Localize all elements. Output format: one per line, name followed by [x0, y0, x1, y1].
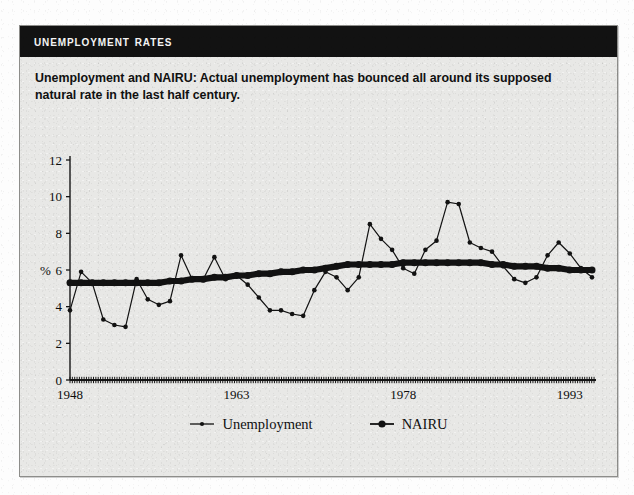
series-nairu — [67, 259, 596, 286]
svg-text:12: 12 — [49, 153, 62, 168]
unemployment-nairu-line-chart: 024681012 1948196319781993 % — [20, 118, 617, 418]
svg-text:1963: 1963 — [224, 387, 250, 402]
chart-legend: Unemployment NAIRU — [20, 410, 617, 438]
legend-label-nairu: NAIRU — [402, 416, 448, 433]
x-axis: 1948196319781993 — [57, 377, 596, 402]
svg-text:10: 10 — [49, 189, 62, 204]
svg-text:1948: 1948 — [57, 387, 83, 402]
svg-text:1993: 1993 — [557, 387, 583, 402]
legend-marker-nairu-icon — [369, 418, 395, 430]
svg-text:6: 6 — [56, 263, 63, 278]
chart-plot-area: 024681012 1948196319781993 % — [20, 118, 617, 418]
y-axis-label: % — [40, 263, 51, 278]
svg-text:0: 0 — [56, 373, 63, 388]
legend-item-unemployment: Unemployment — [189, 416, 312, 433]
figure-page: Unemployment Rates Unemployment and NAIR… — [0, 0, 634, 495]
legend-marker-unemployment-icon — [189, 418, 215, 430]
svg-text:4: 4 — [56, 299, 63, 314]
figure-panel: Unemployment Rates Unemployment and NAIR… — [19, 25, 618, 477]
figure-caption: Unemployment and NAIRU: Actual unemploym… — [35, 70, 595, 104]
svg-text:8: 8 — [56, 226, 63, 241]
y-axis: 024681012 — [49, 153, 70, 388]
legend-label-unemployment: Unemployment — [222, 416, 312, 433]
page-title: Unemployment Rates — [34, 33, 172, 49]
svg-text:2: 2 — [56, 336, 63, 351]
figure-title-bar: Unemployment Rates — [20, 26, 617, 57]
svg-text:1978: 1978 — [390, 387, 416, 402]
legend-item-nairu: NAIRU — [369, 416, 448, 433]
